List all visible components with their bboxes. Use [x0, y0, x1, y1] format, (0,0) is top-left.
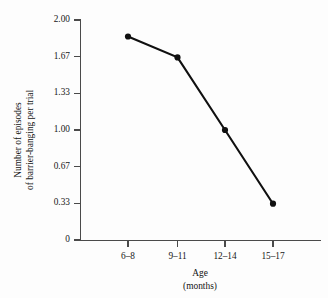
data-point-marker: [270, 201, 276, 207]
y-tick-label: 1.00: [54, 124, 71, 134]
x-tick-label: 12–14: [213, 251, 237, 261]
x-axis-title: Age (months): [183, 268, 217, 292]
x-tick-labels: 6–8 9–11 12–14 15–17: [121, 251, 285, 261]
y-axis-title-line2: of barrier-banging per trial: [25, 90, 35, 190]
y-tick-label: 0: [65, 234, 70, 244]
y-axis-title: Number of episodes of barrier-banging pe…: [13, 90, 35, 190]
line-chart: Number of episodes of barrier-banging pe…: [0, 0, 328, 298]
data-point-marker: [222, 127, 228, 133]
data-point-markers: [125, 33, 276, 206]
y-tick-marks: [74, 20, 81, 240]
data-line-series: [128, 37, 273, 204]
y-tick-label: 1.67: [54, 51, 71, 61]
y-tick-labels: 2.00 1.67 1.33 1.00 0.67 0.33 0: [54, 14, 71, 244]
y-tick-label: 1.33: [54, 87, 71, 97]
x-tick-label: 6–8: [121, 251, 135, 261]
y-tick-label: 0.33: [54, 197, 71, 207]
x-tick-label: 9–11: [168, 251, 187, 261]
data-point-marker: [174, 54, 180, 60]
x-axis-title-line1: Age: [192, 268, 208, 278]
y-tick-label: 0.67: [54, 161, 71, 171]
x-axis-title-line2: (months): [183, 281, 217, 292]
x-tick-marks: [128, 241, 273, 248]
y-tick-label: 2.00: [54, 14, 71, 24]
chart-container: Number of episodes of barrier-banging pe…: [0, 0, 328, 298]
x-tick-label: 15–17: [261, 251, 285, 261]
y-axis-title-line1: Number of episodes: [13, 102, 23, 178]
data-point-marker: [125, 33, 131, 39]
